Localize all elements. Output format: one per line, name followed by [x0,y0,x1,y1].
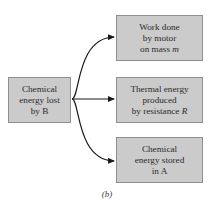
source-box-chemical-energy-lost: Chemical energy lost by B [8,77,71,123]
variable-m: m [172,44,179,54]
target-0-line-3-text: on mass [140,44,172,54]
variable-r: R [182,106,188,116]
source-line-2: energy lost [19,95,59,106]
target-1-line-3: by resistance R [130,106,188,117]
target-2-line-3: in A [135,166,185,177]
source-line-1: Chemical [19,84,59,95]
target-box-work-done: Work done by motor on mass m [116,15,203,61]
source-line-3: by B [19,106,59,117]
target-box-thermal-energy: Thermal energy produced by resistance R [116,77,203,123]
target-0-line-2: by motor [139,33,179,44]
target-1-line-1: Thermal energy [130,84,188,95]
target-box-chemical-energy-stored: Chemical energy stored in A [116,137,203,183]
target-2-line-1: Chemical [135,144,185,155]
target-0-line-1: Work done [139,22,179,33]
arrow-to-work-done [72,37,114,99]
target-1-line-2: produced [130,95,188,106]
figure-caption: (b) [0,189,214,199]
arrow-to-chemical-stored [72,99,114,161]
target-2-line-2: energy stored [135,155,185,166]
target-1-line-3-text: by resistance [132,106,182,116]
target-0-line-3: on mass m [139,44,179,55]
